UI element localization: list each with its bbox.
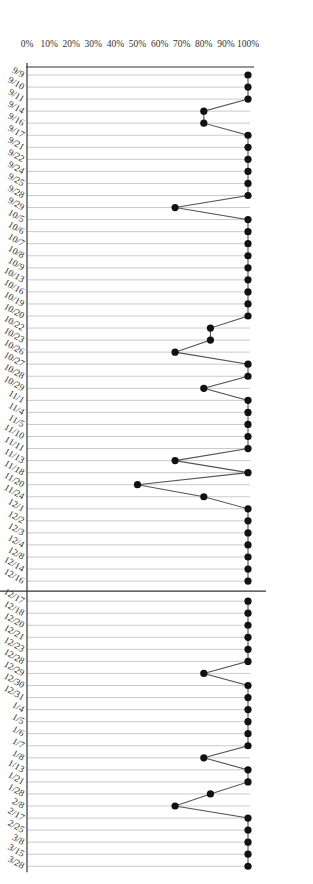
data-point	[244, 228, 251, 235]
data-point	[244, 610, 251, 617]
data-point	[244, 565, 251, 572]
y-tick-label: 90%	[217, 39, 235, 49]
data-point	[244, 192, 251, 199]
data-point	[200, 120, 207, 127]
y-tick-label: 30%	[85, 39, 103, 49]
x-axis-tick-labels: 9/99/109/119/149/169/179/219/229/249/259…	[2, 65, 26, 871]
data-point	[244, 71, 251, 78]
data-point	[244, 682, 251, 689]
data-point	[244, 312, 251, 319]
y-tick-label: 70%	[173, 39, 191, 49]
y-tick-label: 40%	[107, 39, 125, 49]
data-point	[244, 144, 251, 151]
y-tick-label: 0%	[21, 39, 34, 49]
data-point	[244, 578, 251, 585]
y-tick-label: 100%	[237, 39, 259, 49]
data-point	[244, 216, 251, 223]
data-point	[244, 863, 251, 870]
data-point	[244, 839, 251, 846]
data-point	[244, 276, 251, 283]
data-point	[244, 718, 251, 725]
data-point	[200, 493, 207, 500]
data-point	[171, 349, 178, 356]
data-point	[244, 83, 251, 90]
data-point	[244, 694, 251, 701]
data-point	[200, 108, 207, 115]
data-point	[244, 730, 251, 737]
axes	[0, 63, 266, 872]
data-point	[244, 397, 251, 404]
data-point	[244, 445, 251, 452]
data-point	[244, 168, 251, 175]
data-point	[244, 469, 251, 476]
rotated-chart-container: 0%10%20%30%40%50%60%70%80%90%100% 9/99/1…	[0, 0, 313, 884]
data-point	[244, 827, 251, 834]
data-point	[171, 802, 178, 809]
data-point	[244, 658, 251, 665]
data-point	[244, 252, 251, 259]
data-point	[244, 180, 251, 187]
data-point	[244, 851, 251, 858]
data-point	[244, 505, 251, 512]
data-point	[244, 288, 251, 295]
data-point	[244, 778, 251, 785]
y-tick-label: 60%	[151, 39, 169, 49]
data-point	[244, 409, 251, 416]
data-point	[244, 421, 251, 428]
y-tick-label: 20%	[62, 39, 80, 49]
data-point	[200, 670, 207, 677]
data-point	[244, 373, 251, 380]
data-point	[200, 385, 207, 392]
x-tick-label: 3/28	[6, 854, 26, 871]
data-point	[244, 541, 251, 548]
data-point	[244, 156, 251, 163]
data-point	[171, 204, 178, 211]
data-point	[244, 622, 251, 629]
data-point	[244, 598, 251, 605]
data-point	[244, 742, 251, 749]
data-point	[244, 433, 251, 440]
data-point	[244, 529, 251, 536]
data-point	[200, 754, 207, 761]
data-point	[244, 300, 251, 307]
data-point	[244, 240, 251, 247]
data-point	[134, 481, 141, 488]
data-point	[207, 337, 214, 344]
data-point	[244, 814, 251, 821]
y-tick-label: 80%	[195, 39, 213, 49]
data-point	[244, 361, 251, 368]
data-point	[207, 324, 214, 331]
data-point	[244, 264, 251, 271]
data-point	[244, 96, 251, 103]
data-point	[244, 132, 251, 139]
data-point	[244, 634, 251, 641]
data-series	[134, 71, 252, 869]
y-axis-tick-labels: 0%10%20%30%40%50%60%70%80%90%100%	[21, 39, 260, 49]
data-point	[207, 790, 214, 797]
gridlines	[27, 75, 250, 866]
data-point	[244, 646, 251, 653]
data-point	[244, 517, 251, 524]
y-tick-label: 10%	[40, 39, 58, 49]
y-tick-label: 50%	[129, 39, 147, 49]
data-point	[244, 766, 251, 773]
data-point	[244, 553, 251, 560]
data-point	[171, 457, 178, 464]
data-point	[244, 706, 251, 713]
line-chart: 0%10%20%30%40%50%60%70%80%90%100% 9/99/1…	[0, 0, 313, 884]
